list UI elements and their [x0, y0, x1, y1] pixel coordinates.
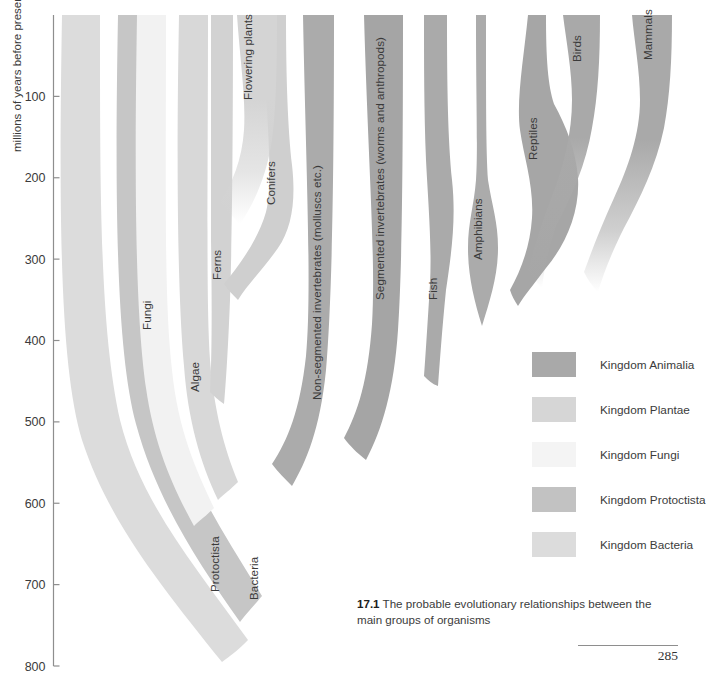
legend-label-bacteria: Kingdom Bacteria — [600, 538, 693, 552]
branch-shape-fish — [424, 15, 454, 386]
y-axis-tick-label: 700 — [25, 578, 46, 592]
y-axis-tick-label: 200 — [25, 171, 46, 185]
branch-label-amphibians: Amphibians — [471, 198, 484, 260]
legend-swatch-bacteria — [532, 532, 576, 557]
branch-label-mammals: Mammals — [641, 9, 654, 60]
figure-caption: 17.1 The probable evolutionary relations… — [357, 596, 673, 629]
page-number-rule — [578, 645, 678, 646]
y-axis-tick-label: 600 — [25, 497, 46, 511]
legend-label-animalia: Kingdom Animalia — [600, 358, 694, 372]
y-axis-tick-label: 500 — [25, 415, 46, 429]
y-axis-title: millions of years before present — [11, 0, 23, 152]
y-axis-tick-group: 100200300400500600700800 — [25, 90, 60, 674]
legend-item-bacteria: Kingdom Bacteria — [532, 532, 706, 557]
legend-swatch-plantae — [532, 397, 576, 422]
legend-label-fungi: Kingdom Fungi — [600, 448, 679, 462]
branch-label-segmented-invertebrates: Segmented invertebrates (worms and anthr… — [373, 37, 386, 300]
legend-swatch-fungi — [532, 442, 576, 467]
branch-label-flowering-plants: Flowering plants — [241, 14, 254, 100]
branch-label-algae: Algae — [188, 362, 201, 392]
branch-label-ferns: Ferns — [210, 250, 223, 280]
y-axis-tick-label: 400 — [25, 334, 46, 348]
branch-label-fungi: Fungi — [140, 300, 153, 330]
y-axis-tick-label: 800 — [25, 660, 46, 674]
figure-number: 17.1 — [357, 597, 380, 610]
page-number: 285 — [578, 648, 678, 664]
y-axis-tick-label: 300 — [25, 253, 46, 267]
branch-label-non-segmented-invertebrates: Non-segmented invertebrates (molluscs et… — [310, 165, 323, 400]
branch-label-protoctista: Protoctista — [208, 536, 221, 592]
y-axis-tick-label: 100 — [25, 90, 46, 104]
legend-label-protoctista: Kingdom Protoctista — [600, 493, 706, 507]
figure-caption-text: The probable evolutionary relationships … — [357, 597, 651, 626]
branch-label-fish: Fish — [426, 278, 439, 300]
legend-label-plantae: Kingdom Plantae — [600, 403, 690, 417]
branch-label-reptiles: Reptiles — [526, 117, 539, 160]
legend: Kingdom Animalia Kingdom Plantae Kingdom… — [532, 352, 706, 577]
legend-swatch-protoctista — [532, 487, 576, 512]
branch-label-conifers: Conifers — [264, 161, 277, 205]
legend-item-animalia: Kingdom Animalia — [532, 352, 706, 377]
evolutionary-tree-chart: 100200300400500600700800 millions of yea… — [0, 0, 706, 693]
evolutionary-tree-figure: 100200300400500600700800 millions of yea… — [0, 0, 706, 693]
branch-label-bacteria: Bacteria — [247, 556, 260, 600]
branch-label-birds: Birds — [570, 35, 583, 62]
branch-shape-amphibians — [468, 15, 498, 326]
legend-item-plantae: Kingdom Plantae — [532, 397, 706, 422]
y-axis: 100200300400500600700800 — [25, 15, 60, 674]
legend-swatch-animalia — [532, 352, 576, 377]
legend-item-fungi: Kingdom Fungi — [532, 442, 706, 467]
legend-item-protoctista: Kingdom Protoctista — [532, 487, 706, 512]
